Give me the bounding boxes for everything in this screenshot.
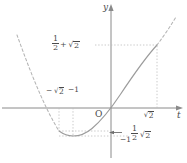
radical-argument: 2 bbox=[148, 111, 154, 120]
y-value-upper-label: 1 2 +√2 bbox=[52, 36, 80, 53]
vertex-value-label: 1 2 √2 bbox=[131, 126, 151, 143]
minus-sign: − bbox=[46, 87, 52, 95]
y-tick-neg-one-label: −1 bbox=[120, 136, 131, 144]
x-tick-neg-sqrt2-label: −√2 bbox=[46, 86, 64, 95]
x-tick-sqrt2-label: √2 bbox=[143, 110, 154, 119]
plus-sign: + bbox=[60, 41, 67, 49]
y-axis bbox=[108, 4, 113, 158]
radical-argument: 2 bbox=[73, 41, 79, 50]
curve-dashed-right bbox=[157, 17, 176, 45]
fraction-one-half: 1 2 bbox=[52, 35, 59, 52]
y-axis-label: y bbox=[103, 3, 108, 12]
fraction-denominator: 2 bbox=[131, 133, 138, 142]
fraction-denominator: 2 bbox=[52, 43, 59, 52]
radical-sqrt2: √2 bbox=[143, 110, 154, 119]
fraction-numerator: 1 bbox=[52, 35, 59, 43]
radical-argument: 2 bbox=[145, 131, 151, 140]
function-plot-figure: y t O √2 −√2 −1 1 2 +√2 1 2 √2 −1 bbox=[0, 0, 187, 163]
radical-sqrt2: √2 bbox=[68, 40, 80, 49]
fraction-numerator: 1 bbox=[131, 125, 138, 133]
x-tick-neg-one-label: −1 bbox=[68, 86, 79, 94]
plot-canvas bbox=[0, 0, 187, 163]
x-axis bbox=[2, 105, 183, 110]
origin-label: O bbox=[95, 110, 102, 119]
x-axis-label: t bbox=[177, 111, 181, 120]
fraction-one-half: 1 2 bbox=[131, 125, 138, 142]
radical-sqrt2: √2 bbox=[53, 86, 64, 95]
radical-sqrt2: √2 bbox=[139, 130, 151, 139]
radical-argument: 2 bbox=[59, 87, 65, 96]
y-axis-arrow bbox=[108, 4, 113, 11]
